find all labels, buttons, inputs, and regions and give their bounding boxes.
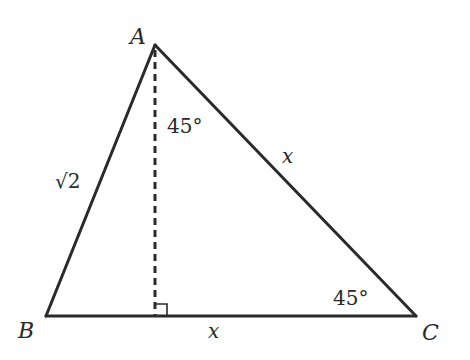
vertex-label-c: C (422, 320, 439, 345)
side-ac (155, 45, 416, 316)
triangle-diagram: A B C √2 x x 45° 45° (0, 0, 470, 360)
side-label-ac: x (282, 144, 293, 168)
side-label-bc: x (208, 319, 219, 343)
side-label-ab: √2 (55, 169, 80, 193)
right-angle-marker (155, 304, 167, 316)
vertex-label-a: A (128, 24, 146, 49)
angle-label-c: 45° (333, 286, 368, 310)
angle-label-a: 45° (167, 114, 202, 138)
vertex-label-b: B (17, 318, 34, 343)
